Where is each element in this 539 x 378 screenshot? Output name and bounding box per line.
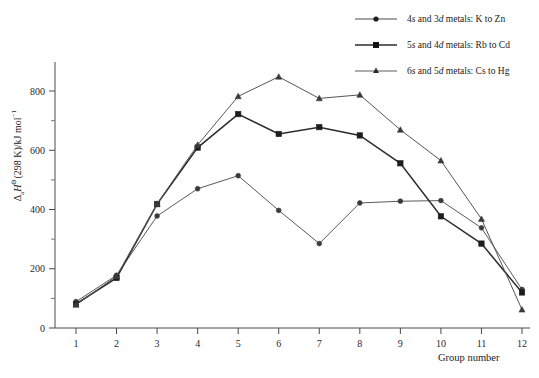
data-point-s2-g7 — [317, 124, 322, 129]
data-point-s3-g10 — [438, 158, 444, 164]
series-line-2 — [76, 114, 522, 304]
data-point-s2-g5 — [235, 111, 240, 116]
y-tick-label-600: 600 — [30, 145, 45, 156]
data-point-s1-g7 — [317, 241, 322, 246]
data-point-s2-g6 — [276, 131, 281, 136]
data-point-s1-g5 — [236, 173, 241, 178]
x-tick-label-11: 11 — [477, 338, 487, 349]
x-tick-label-4: 4 — [195, 338, 200, 349]
x-tick-label-7: 7 — [317, 338, 322, 349]
x-tick-label-5: 5 — [236, 338, 241, 349]
circle-marker-icon — [355, 12, 397, 26]
data-point-s2-g11 — [479, 241, 484, 246]
y-tick-label-200: 200 — [30, 263, 45, 274]
data-point-s2-g12 — [519, 290, 524, 295]
legend-label-6s5d: 6s and 5d metals: Cs to Hg — [407, 66, 509, 76]
data-point-s3-g8 — [357, 92, 363, 98]
y-axis-title-standard-state: ⊖ — [10, 179, 18, 185]
y-tick-label-400: 400 — [30, 204, 45, 215]
legend-entry-6s5d: 6s and 5d metals: Cs to Hg — [355, 58, 539, 84]
square-marker-icon — [355, 38, 397, 52]
x-tick-label-2: 2 — [114, 338, 119, 349]
series-line-3 — [76, 77, 522, 310]
legend-label-4s3d: 4s and 3d metals: K to Zn — [407, 14, 505, 24]
y-axis-title-exponent: −1 — [10, 110, 18, 117]
x-tick-label-8: 8 — [357, 338, 362, 349]
data-point-s1-g4 — [195, 186, 200, 191]
data-point-s3-g12 — [519, 307, 525, 313]
legend-entry-5s4d: 5s and 4d metals: Rb to Cd — [355, 32, 539, 58]
y-axis-title-condition: (298 K)/kJ mol — [12, 117, 23, 178]
y-axis-title-sub-a: a — [18, 192, 26, 195]
y-axis-label-wrapper: ΔaH⊖(298 K)/kJ mol−1 — [0, 0, 22, 340]
chart-container: 0200400600800123456789101112 ΔaH⊖(298 K)… — [0, 0, 539, 378]
legend-entry-4s3d: 4s and 3d metals: K to Zn — [355, 6, 539, 32]
data-point-s1-g10 — [439, 198, 444, 203]
triangle-marker-icon — [355, 64, 397, 78]
data-point-s1-g3 — [155, 214, 160, 219]
y-tick-label-800: 800 — [30, 86, 45, 97]
data-point-s2-g9 — [398, 161, 403, 166]
y-axis-title-h: H — [12, 185, 23, 192]
data-point-s1-g6 — [276, 208, 281, 213]
x-axis-title: Group number — [438, 352, 500, 363]
data-point-s3-g6 — [276, 74, 282, 80]
data-point-s1-g9 — [398, 199, 403, 204]
data-point-s3-g5 — [235, 93, 241, 99]
y-axis-title: ΔaH⊖(298 K)/kJ mol−1 — [10, 46, 25, 266]
y-axis-title-delta: Δ — [12, 195, 23, 201]
series-line-1 — [76, 176, 522, 302]
data-point-s1-g8 — [357, 201, 362, 206]
data-point-s2-g10 — [438, 214, 443, 219]
x-tick-label-10: 10 — [436, 338, 446, 349]
x-tick-label-12: 12 — [517, 338, 527, 349]
x-tick-label-9: 9 — [398, 338, 403, 349]
data-point-s1-g11 — [479, 225, 484, 230]
y-tick-label-0: 0 — [40, 323, 45, 334]
chart-legend: 4s and 3d metals: K to Zn 5s and 4d meta… — [355, 6, 539, 84]
x-tick-label-6: 6 — [276, 338, 281, 349]
x-tick-label-3: 3 — [155, 338, 160, 349]
data-point-s2-g8 — [357, 133, 362, 138]
legend-label-5s4d: 5s and 4d metals: Rb to Cd — [407, 40, 510, 50]
x-tick-label-1: 1 — [74, 338, 79, 349]
